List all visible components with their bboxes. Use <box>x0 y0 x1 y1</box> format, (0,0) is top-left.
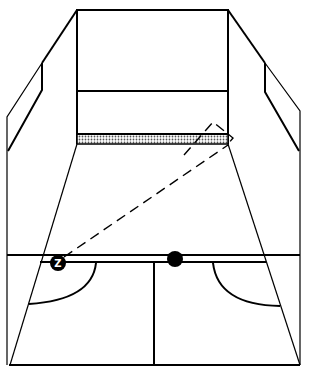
court-floor <box>7 255 300 365</box>
front-wall <box>77 10 228 144</box>
squash-court-diagram: Z <box>0 0 309 376</box>
right-service-box-arc <box>213 263 280 306</box>
right-side-wall <box>228 10 300 365</box>
ball-marker <box>167 251 183 267</box>
player-label: Z <box>54 258 61 269</box>
tin <box>77 134 228 144</box>
left-side-wall <box>7 10 77 365</box>
player-z-marker: Z <box>50 255 66 271</box>
